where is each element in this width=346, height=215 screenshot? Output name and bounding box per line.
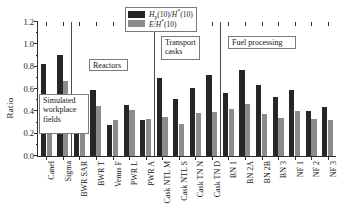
x-axis-label-venus-f: Venus F	[115, 161, 123, 187]
bar-hp10-cask-tn-d	[206, 75, 211, 156]
bar-e-venus-f	[113, 120, 118, 156]
y-axis-title: Ratio	[5, 78, 15, 138]
bar-e-bn-3	[278, 118, 283, 156]
y-axis-tick-label: 0.6	[23, 85, 34, 94]
x-axis-top-tick	[311, 22, 312, 26]
x-axis-label-nf-1: NF 1	[297, 161, 305, 177]
bar-hp10-bn-2a	[239, 70, 244, 156]
legend: Hp(10)/H*(10) E/H*(10)	[125, 7, 197, 32]
x-axis-label-bwr-t: BWR T	[98, 161, 106, 186]
x-axis-label-cask-ntl-m: Cask NTL M	[164, 161, 172, 203]
legend-swatch-hp10	[128, 11, 145, 18]
x-axis-tick	[195, 156, 196, 160]
bar-hp10-cask-ntl-m	[157, 78, 162, 156]
y-axis-tick	[34, 155, 38, 156]
bar-hp10-bn-1	[223, 93, 228, 156]
x-axis-tick	[228, 156, 229, 160]
x-axis-tick	[46, 156, 47, 160]
y-axis-tick-label: 0.8	[23, 62, 34, 71]
bar-hp10-bwr-t	[90, 90, 95, 156]
y-axis-tick-label: 0.0	[23, 152, 34, 161]
bar-hp10-pwr-a	[140, 120, 145, 156]
bar-e-cask-ntl-s	[179, 124, 184, 156]
x-axis-tick	[295, 156, 296, 160]
bar-e-bn-1	[229, 109, 234, 156]
bar-e-pwr-a	[146, 119, 151, 156]
bar-hp10-nf-2	[306, 111, 311, 156]
y-axis-tick	[34, 43, 38, 44]
x-axis-label-bwr-sar: BWR SAR	[81, 161, 89, 197]
y-axis-minor-tick	[36, 99, 39, 100]
x-axis-top-tick	[79, 22, 80, 26]
x-axis-label-cask-tn-d: Cask TN D	[214, 161, 222, 197]
x-axis-tick	[79, 156, 80, 160]
y-axis-tick-label: 1.0	[23, 40, 34, 49]
x-axis-label-pwr-a: PWR A	[148, 161, 156, 186]
x-axis-top-tick	[262, 22, 263, 26]
bar-hp10-nf-1	[289, 90, 294, 156]
bar-e-cask-tn-d	[212, 112, 217, 156]
bar-e-cask-ntl-m	[162, 117, 167, 156]
bar-hp10-venus-f	[107, 125, 112, 156]
x-axis-tick	[278, 156, 279, 160]
bar-e-cask-tn-n	[196, 113, 201, 156]
x-axis-top-tick	[212, 22, 213, 26]
annotation-transport-casks: Transport casks	[161, 36, 200, 60]
x-axis-label-canel: Canel	[48, 161, 56, 180]
x-axis-top-tick	[113, 22, 114, 26]
x-axis-tick	[262, 156, 263, 160]
x-axis-top-tick	[295, 22, 296, 26]
y-axis-tick-label: 0.4	[23, 107, 34, 116]
bar-hp10-nf-3	[322, 107, 327, 156]
x-axis-tick	[311, 156, 312, 160]
x-axis-label-cask-tn-n: Cask TN N	[197, 161, 205, 197]
x-axis-tick	[96, 156, 97, 160]
annotation-fuel-processing: Fuel processing	[228, 36, 296, 49]
group-separator	[220, 22, 221, 156]
legend-label-e: E/H*(10)	[149, 18, 177, 29]
group-separator	[71, 22, 72, 156]
x-axis-tick	[113, 156, 114, 160]
annotation-reactors: Reactors	[89, 59, 128, 71]
x-axis-tick	[179, 156, 180, 160]
bar-hp10-bn-3	[273, 97, 278, 156]
bar-e-pwr-l	[129, 110, 134, 156]
bar-e-nf-2	[311, 119, 316, 156]
group-separator	[154, 22, 155, 156]
legend-entry-hp10: Hp(10)/H*(10)	[128, 10, 193, 19]
x-axis-label-sigma: Sigma	[65, 161, 73, 181]
legend-swatch-e	[128, 20, 145, 27]
y-axis-minor-tick	[36, 122, 39, 123]
y-axis-minor-tick	[36, 55, 39, 56]
x-axis-tick	[328, 156, 329, 160]
x-axis-label-bn-1: BN 1	[230, 161, 238, 178]
y-axis-minor-tick	[36, 32, 39, 33]
bar-hp10-bwr-sar	[74, 133, 79, 156]
x-axis-label-nf-3: NF 3	[330, 161, 338, 177]
x-axis-tick	[63, 156, 64, 160]
x-axis-top-tick	[63, 22, 64, 26]
y-axis-tick-label: 1.2	[23, 18, 34, 27]
y-axis-tick	[34, 88, 38, 89]
x-axis-top-tick	[245, 22, 246, 26]
x-axis-label-bn-2b: BN 2B	[264, 161, 272, 183]
x-axis-tick	[212, 156, 213, 160]
bar-e-bn-2a	[245, 104, 250, 156]
bar-hp10-cask-ntl-s	[173, 99, 178, 157]
bar-e-bn-2b	[262, 114, 267, 156]
y-axis-tick-label: 0.2	[23, 129, 34, 138]
x-axis-label-nf-2: NF 2	[313, 161, 321, 177]
x-axis-top-tick	[46, 22, 47, 26]
y-axis-tick	[34, 133, 38, 134]
x-axis-label-bn-3: BN 3	[280, 161, 288, 178]
bar-hp10-pwr-l	[124, 105, 129, 156]
y-axis-tick	[34, 66, 38, 67]
x-axis-tick	[245, 156, 246, 160]
x-axis-label-pwr-l: PWR L	[131, 161, 139, 185]
x-axis-label-cask-ntl-s: Cask NTL S	[181, 161, 189, 201]
x-axis-tick	[162, 156, 163, 160]
y-axis-tick	[34, 110, 38, 111]
x-axis-label-bn-2a: BN 2A	[247, 161, 255, 184]
x-axis-tick	[146, 156, 147, 160]
bar-e-nf-1	[295, 111, 300, 156]
